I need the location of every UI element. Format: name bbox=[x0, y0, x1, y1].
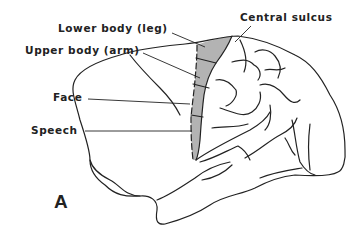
label-central-sulcus: Central sulcus bbox=[240, 12, 333, 23]
lateral-fissure bbox=[196, 112, 270, 160]
label-speech: Speech bbox=[31, 125, 78, 136]
panel-letter: A bbox=[54, 192, 68, 211]
label-lower-body: Lower body (leg) bbox=[58, 23, 168, 34]
label-face: Face bbox=[53, 92, 82, 103]
brain-diagram: Lower body (leg) Upper body (arm) Face S… bbox=[0, 0, 361, 236]
leader-central-sulcus bbox=[235, 26, 251, 42]
leader-face bbox=[88, 99, 190, 104]
label-upper-body: Upper body (arm) bbox=[25, 45, 140, 56]
leader-upper-body bbox=[143, 53, 200, 78]
